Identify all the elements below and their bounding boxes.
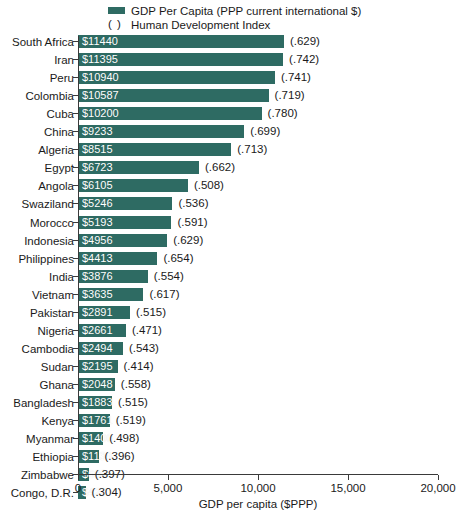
category-label: Peru (0, 71, 74, 86)
bar-value-label: $1761 (82, 414, 113, 427)
chart-row: Pakistan$2891(.515) (0, 305, 471, 323)
category-label: Iran (0, 53, 74, 68)
x-tick-mark (348, 475, 349, 480)
bar-value-label: $11395 (82, 53, 118, 66)
category-label: Colombia (0, 89, 74, 104)
chart-row: China$9233(.699) (0, 124, 471, 142)
bar-value-label: $3635 (82, 288, 113, 301)
bar-value-label: $3876 (82, 270, 113, 283)
chart-row: India$3876(.554) (0, 269, 471, 287)
chart-row: Swaziland$5246(.536) (0, 196, 471, 214)
hdi-annotation: (.543) (129, 342, 159, 355)
gdp-hdi-bar-chart: GDP Per Capita (PPP current internationa… (0, 0, 471, 516)
hdi-annotation: (.741) (281, 71, 311, 84)
hdi-annotation: (.713) (237, 143, 267, 156)
chart-row: South Africa$11440(.629) (0, 34, 471, 52)
legend-parenthesis-icon: ( ) (108, 19, 125, 30)
x-tick-label: 0 (38, 481, 118, 495)
legend-label-hdi: Human Development Index (131, 19, 270, 31)
category-label: Swaziland (0, 197, 74, 212)
category-label: India (0, 270, 74, 285)
x-tick-mark (78, 475, 79, 480)
chart-row: Colombia$10587(.719) (0, 88, 471, 106)
legend-swatch-icon (108, 7, 125, 14)
chart-row: Indonesia$4956(.629) (0, 233, 471, 251)
chart-row: Cambodia$2494(.543) (0, 341, 471, 359)
bar-value-label: $5193 (82, 216, 113, 229)
bar-value-label: $2195 (82, 360, 113, 373)
y-axis-line (78, 36, 79, 475)
bar-value-label: $10587 (82, 89, 119, 102)
hdi-annotation: (.617) (149, 288, 179, 301)
bar-value-label: $2048 (82, 378, 113, 391)
category-label: Ethiopia (0, 450, 74, 465)
bar-value-label: $1400 (82, 432, 113, 445)
hdi-annotation: (.719) (275, 89, 305, 102)
hdi-annotation: (.498) (109, 432, 139, 445)
chart-row: Myanmar$1400(.498) (0, 431, 471, 449)
category-label: Angola (0, 179, 74, 194)
hdi-annotation: (.396) (105, 450, 135, 463)
chart-row: Angola$6105(.508) (0, 178, 471, 196)
category-label: Bangladesh (0, 396, 74, 411)
hdi-annotation: (.662) (205, 161, 235, 174)
chart-row: Iran$11395(.742) (0, 52, 471, 70)
chart-row: Ghana$2048(.558) (0, 377, 471, 395)
category-label: Nigeria (0, 324, 74, 339)
hdi-annotation: (.629) (290, 35, 320, 48)
chart-row: Bangladesh$1883(.515) (0, 395, 471, 413)
chart-row: Ethiopia$1139(.396) (0, 449, 471, 467)
chart-legend: GDP Per Capita (PPP current internationa… (108, 4, 458, 32)
x-tick-label: 15,000 (308, 481, 388, 495)
x-axis-title: GDP per capita ($PPP) (78, 497, 438, 511)
bar-value-label: $5246 (82, 197, 113, 210)
hdi-annotation: (.591) (177, 216, 207, 229)
category-label: Sudan (0, 360, 74, 375)
bar-value-label: $4413 (82, 252, 113, 265)
bar-value-label: $6105 (82, 179, 113, 192)
chart-row: Cuba$10200(.780) (0, 106, 471, 124)
x-tick-label: 20,000 (398, 481, 471, 495)
plot-area: South Africa$11440(.629)Iran$11395(.742)… (0, 34, 471, 474)
x-tick-label: 5,000 (128, 481, 208, 495)
hdi-annotation: (.515) (136, 306, 166, 319)
hdi-annotation: (.519) (116, 414, 146, 427)
bar-value-label: $11440 (82, 35, 118, 48)
bar-value-label: $9233 (82, 125, 113, 138)
category-label: Kenya (0, 414, 74, 429)
legend-entry-hdi: ( ) Human Development Index (108, 18, 458, 31)
hdi-annotation: (.654) (163, 252, 193, 265)
category-label: Morocco (0, 216, 74, 231)
chart-row: Morocco$5193(.591) (0, 215, 471, 233)
hdi-annotation: (.629) (173, 234, 203, 247)
x-tick-mark (258, 475, 259, 480)
chart-row: Kenya$1761(.519) (0, 413, 471, 431)
category-label: Ghana (0, 378, 74, 393)
category-label: Pakistan (0, 306, 74, 321)
chart-row: Egypt$6723(.662) (0, 160, 471, 178)
bar-value-label: $6723 (82, 161, 113, 174)
chart-row: Nigeria$2661(.471) (0, 323, 471, 341)
hdi-annotation: (.536) (178, 197, 208, 210)
hdi-annotation: (.780) (268, 107, 298, 120)
bar-value-label: $2661 (82, 324, 113, 337)
hdi-annotation: (.414) (124, 360, 154, 373)
chart-row: Philippines$4413(.654) (0, 251, 471, 269)
category-label: Egypt (0, 161, 74, 176)
category-label: Indonesia (0, 234, 74, 249)
hdi-annotation: (.742) (289, 53, 319, 66)
bar-value-label: $8515 (82, 143, 113, 156)
hdi-annotation: (.508) (194, 179, 224, 192)
chart-row: Sudan$2195(.414) (0, 359, 471, 377)
x-tick-label: 10,000 (218, 481, 298, 495)
bar-value-label: $2891 (82, 306, 113, 319)
bar-value-label: $10940 (82, 71, 119, 84)
hdi-annotation: (.515) (118, 396, 148, 409)
x-tick-mark (168, 475, 169, 480)
bar-value-label: $1883 (82, 396, 113, 409)
category-label: Philippines (0, 252, 74, 267)
x-tick-mark (438, 475, 439, 480)
hdi-annotation: (.471) (132, 324, 162, 337)
chart-row: Vietnam$3635(.617) (0, 287, 471, 305)
chart-row: Peru$10940(.741) (0, 70, 471, 88)
